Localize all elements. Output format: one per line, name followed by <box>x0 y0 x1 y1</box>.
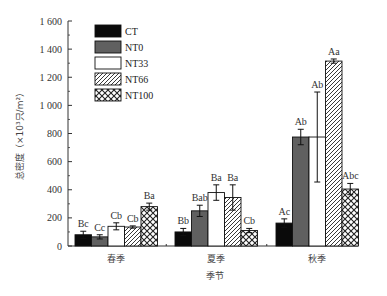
significance-label: Ba <box>211 172 223 183</box>
legend-label: NT0 <box>125 42 143 53</box>
bar-ct: Ac <box>276 206 293 246</box>
y-tick-label: 200 <box>47 212 62 223</box>
x-category-label: 秋季 <box>308 253 326 264</box>
legend-label: NT66 <box>125 74 148 85</box>
y-axis-label: 总密度（×10³只/m²） <box>14 88 25 180</box>
bar-nt100: Cb <box>241 215 258 246</box>
significance-label: Ab <box>311 79 323 90</box>
significance-label: Cb <box>110 210 122 221</box>
legend-item-nt66: NT66 <box>95 73 148 85</box>
significance-label: Abc <box>342 170 359 181</box>
significance-label: Ba <box>227 172 239 183</box>
significance-label: Ab <box>295 116 307 127</box>
bar-nt100: Ba <box>141 190 158 246</box>
y-tick-label: 1 400 <box>40 44 63 55</box>
y-axis: 02004006008001 0001 2001 4001 600 <box>40 16 73 252</box>
y-tick-label: 600 <box>47 156 62 167</box>
significance-label: Bb <box>177 215 189 226</box>
significance-label: Aa <box>328 46 340 57</box>
y-tick-label: 800 <box>47 128 62 139</box>
bar-nt33: Ab <box>309 79 326 246</box>
legend-item-nt0: NT0 <box>95 41 143 53</box>
significance-label: Cb <box>127 213 139 224</box>
x-category-label: 春季 <box>107 253 125 264</box>
significance-label: Bc <box>78 218 90 229</box>
bar-nt0: Ab <box>293 116 310 246</box>
y-tick-label: 0 <box>57 241 62 252</box>
bar-nt0: Cc <box>92 222 109 246</box>
bar-nt33: Ba <box>208 172 225 246</box>
significance-label: Ac <box>278 206 290 217</box>
significance-label: Cb <box>243 215 255 226</box>
legend-label: CT <box>125 26 138 37</box>
bar-chart: 总密度（×10³只/m²） 02004006008001 0001 2001 4… <box>0 0 387 296</box>
y-tick-label: 1 000 <box>40 100 63 111</box>
bar-nt33: Cb <box>108 210 125 246</box>
x-category-label: 夏季 <box>207 253 225 264</box>
legend-label: NT33 <box>125 58 148 69</box>
bar-nt66: Cb <box>125 213 142 246</box>
significance-label: Bab <box>192 192 208 203</box>
significance-label: Cc <box>94 222 106 233</box>
legend-label: NT100 <box>125 90 153 101</box>
bar-ct: Bc <box>75 218 92 246</box>
y-tick-label: 1 600 <box>40 16 63 27</box>
legend-item-nt100: NT100 <box>95 89 153 101</box>
legend: CTNT0NT33NT66NT100 <box>95 25 153 101</box>
bar-nt66: Aa <box>326 46 343 246</box>
legend-item-nt33: NT33 <box>95 57 148 69</box>
significance-label: Ba <box>144 190 156 201</box>
bar-nt0: Bab <box>192 192 209 246</box>
bar-nt100: Abc <box>342 170 359 246</box>
bar-ct: Bb <box>175 215 192 246</box>
y-tick-label: 1 200 <box>40 72 63 83</box>
legend-item-ct: CT <box>95 25 138 37</box>
y-tick-label: 400 <box>47 184 62 195</box>
y-axis-title: 总密度（×10³只/m²） <box>14 88 25 180</box>
x-axis-label: 季节 <box>206 270 224 281</box>
bar-nt66: Ba <box>225 172 242 246</box>
